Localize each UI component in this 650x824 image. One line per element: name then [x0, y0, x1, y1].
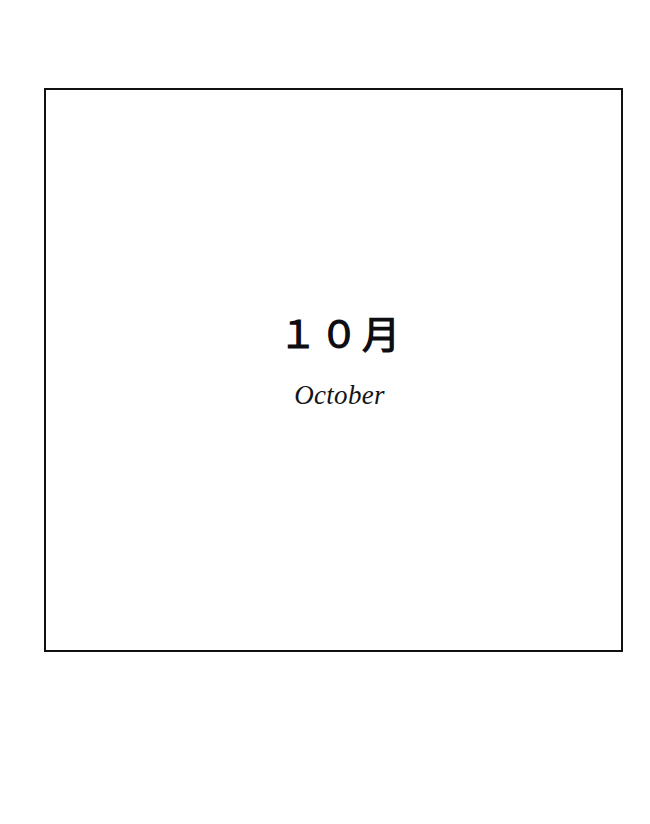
page-canvas: １０月 October	[0, 0, 650, 824]
month-label-english: October	[58, 382, 621, 409]
month-divider-frame: １０月 October	[44, 88, 623, 652]
month-title-block: １０月 October	[46, 90, 621, 409]
month-label-japanese: １０月	[58, 316, 621, 354]
